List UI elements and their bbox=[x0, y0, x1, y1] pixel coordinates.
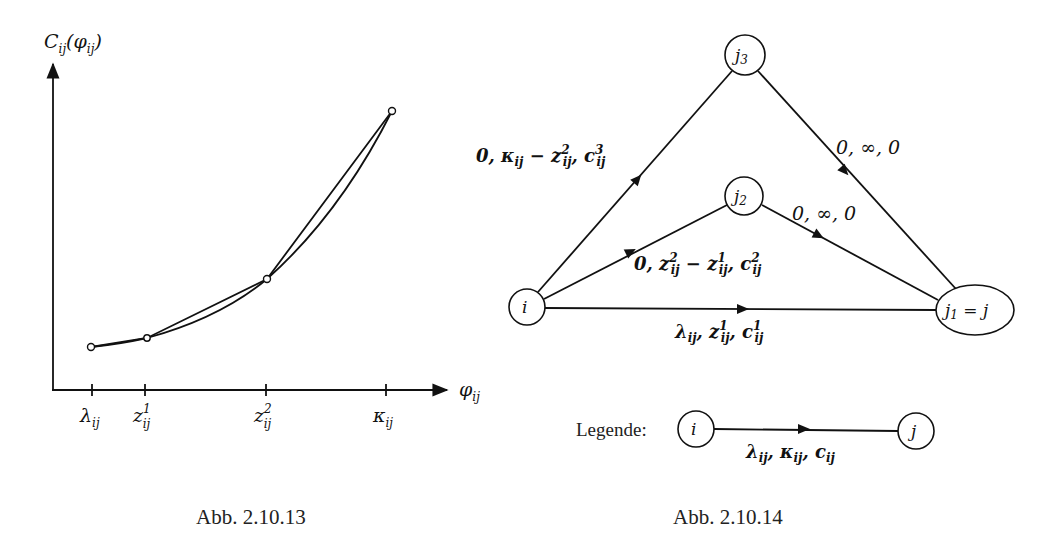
x-tick-label-z2: z2ij bbox=[253, 402, 272, 431]
legend: Legende: i j λij, κij, cij bbox=[576, 411, 934, 465]
node-j3: j3 bbox=[725, 35, 765, 75]
edge-label-i-j1: λij, z1ij, c1ij bbox=[674, 319, 764, 345]
arrow-icon bbox=[798, 424, 810, 434]
svg-text:i: i bbox=[691, 419, 696, 439]
node-i: i bbox=[509, 289, 545, 325]
x-tick-label-z1: z1ij bbox=[132, 402, 151, 431]
svg-text:j1 = j: j1 = j bbox=[941, 300, 989, 322]
cost-curve bbox=[91, 111, 392, 347]
legend-node-from: i bbox=[678, 411, 714, 447]
caption-right: Abb. 2.10.14 bbox=[673, 505, 783, 529]
node-j2: j2 bbox=[725, 177, 763, 215]
piecewise-linear-approximation bbox=[91, 111, 392, 347]
arrow-icon bbox=[812, 229, 826, 243]
edge-label-j2-j1: 0, ∞, 0 bbox=[792, 202, 856, 224]
breakpoint-marker bbox=[144, 335, 150, 341]
edge-label-i-j2: 0, z2ij − z1ij, c2ij bbox=[634, 251, 762, 277]
x-tick-label-kappa: κij bbox=[372, 404, 393, 430]
x-tick-label-lambda: λij bbox=[79, 404, 100, 430]
edge-label-j3-j1: 0, ∞, 0 bbox=[836, 136, 900, 158]
breakpoint-marker bbox=[264, 276, 271, 283]
y-axis-label: Cij(φij) bbox=[44, 30, 102, 56]
network-diagram: j3 j2 i j1 = j 0, κij − z2ij, c3ij 0, ∞,… bbox=[476, 35, 1014, 345]
breakpoint-marker bbox=[88, 344, 95, 351]
cost-function-chart: Cij(φij) φij λij z1ij z2ij κij bbox=[44, 30, 480, 431]
caption-left: Abb. 2.10.13 bbox=[196, 505, 306, 529]
breakpoint-marker bbox=[389, 108, 396, 115]
edge-i-j2 bbox=[544, 205, 727, 299]
legend-edge-label: λij, κij, cij bbox=[745, 441, 836, 465]
arrow-icon bbox=[737, 304, 749, 314]
x-axis-label: φij bbox=[459, 378, 480, 404]
svg-text:i: i bbox=[522, 297, 527, 317]
node-j1: j1 = j bbox=[936, 285, 1014, 335]
legend-title: Legende: bbox=[576, 419, 647, 440]
edge-label-i-j3: 0, κij − z2ij, c3ij bbox=[476, 143, 606, 169]
legend-node-to: j bbox=[898, 413, 934, 449]
